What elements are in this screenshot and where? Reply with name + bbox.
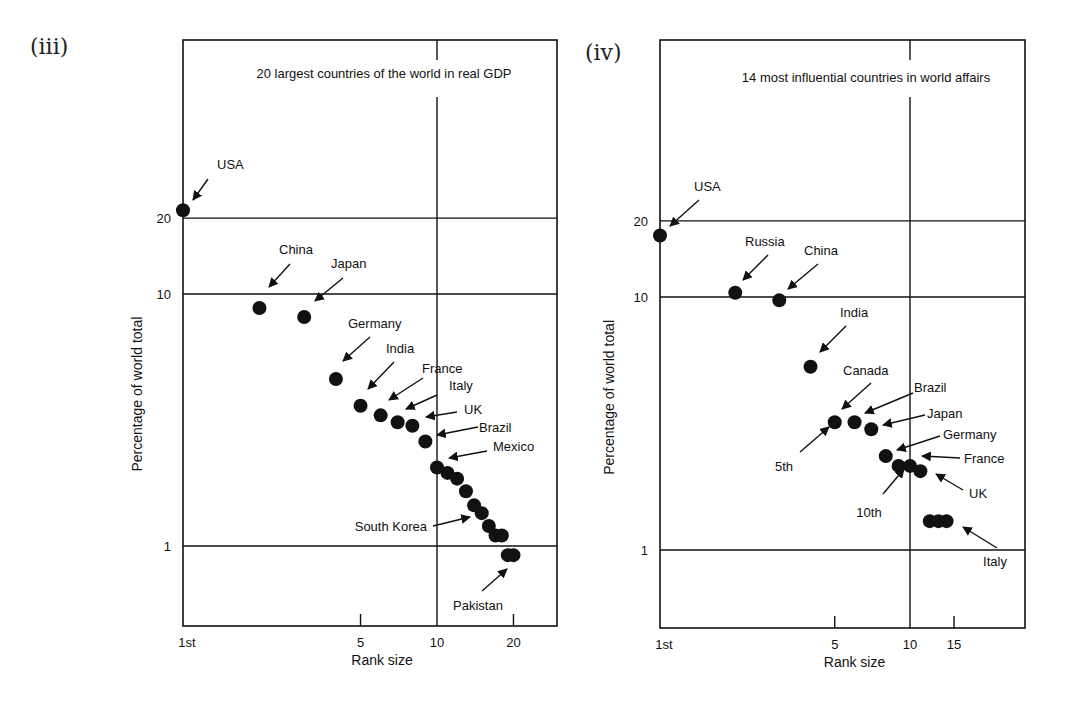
y-tick-label: 1 (641, 543, 648, 558)
chart-title: 20 largest countries of the world in rea… (256, 66, 511, 81)
data-point (459, 484, 473, 498)
point-label: Germany (348, 316, 402, 331)
arrow-icon (922, 456, 960, 458)
point-label: France (964, 451, 1004, 466)
data-point (495, 529, 509, 543)
data-point (405, 419, 419, 433)
data-point (804, 360, 818, 374)
point-label: Japan (927, 406, 962, 421)
point-label: India (386, 341, 415, 356)
data-point (252, 301, 266, 315)
y-tick-label: 20 (634, 214, 648, 229)
arrow-icon (670, 200, 699, 226)
x-tick-label: 5 (357, 635, 364, 650)
x-tick-label: 10 (903, 637, 917, 652)
arrow-icon (788, 264, 818, 289)
arrow-icon (269, 264, 290, 287)
chart-title: 14 most influential countries in world a… (742, 70, 991, 85)
x-axis-label: Rank size (351, 652, 413, 668)
data-point (475, 506, 489, 520)
point-label: UK (464, 402, 482, 417)
y-axis-label: Percentage of world total (601, 320, 617, 475)
x-tick-label: 20 (506, 635, 520, 650)
arrow-icon (389, 378, 423, 400)
y-tick-label: 10 (634, 290, 648, 305)
arrow-icon (936, 474, 963, 490)
point-label: Japan (331, 256, 366, 271)
arrow-icon (406, 395, 437, 409)
arrow-icon (883, 415, 925, 425)
arrow-icon (865, 393, 913, 413)
rank-annotation: 10th (856, 505, 881, 520)
data-point (374, 408, 388, 422)
arrow-icon (426, 412, 457, 417)
data-point (391, 415, 405, 429)
data-point (940, 514, 954, 528)
point-label: Germany (943, 427, 997, 442)
y-tick-label: 20 (157, 211, 171, 226)
chart-gdp: 20 largest countries of the world in rea… (129, 40, 557, 668)
data-point (879, 449, 893, 463)
y-tick-label: 10 (157, 287, 171, 302)
data-point (506, 548, 520, 562)
x-axis-label: Rank size (824, 654, 886, 670)
point-label: China (279, 242, 314, 257)
x-tick-label: 5 (831, 637, 838, 652)
data-point (176, 203, 190, 217)
data-point (828, 415, 842, 429)
point-label: France (422, 361, 462, 376)
arrow-icon (482, 569, 507, 591)
x-tick-label: 10 (430, 635, 444, 650)
point-label: India (840, 305, 869, 320)
point-label: Italy (983, 554, 1007, 569)
point-label: Brazil (914, 380, 947, 395)
arrow-icon (343, 337, 370, 361)
point-label: Russia (745, 234, 786, 249)
chart-influence: 14 most influential countries in world a… (601, 40, 1025, 670)
arrow-icon (449, 451, 487, 458)
point-label: USA (694, 179, 721, 194)
arrow-icon (820, 326, 846, 352)
point-label: Canada (843, 363, 889, 378)
arrow-icon (883, 469, 904, 494)
data-point (297, 310, 311, 324)
data-point (848, 415, 862, 429)
point-label: South Korea (355, 519, 428, 534)
plot-frame (660, 40, 1025, 628)
charts-canvas: 20 largest countries of the world in rea… (0, 0, 1077, 715)
data-point (864, 422, 878, 436)
arrow-icon (842, 383, 871, 409)
data-point (728, 286, 742, 300)
point-label: UK (969, 486, 987, 501)
arrow-icon (433, 517, 470, 526)
data-point (354, 399, 368, 413)
arrow-icon (800, 427, 829, 452)
point-label: Italy (449, 378, 473, 393)
x-tick-label: 15 (947, 637, 961, 652)
arrow-icon (368, 362, 394, 389)
rank-annotation: 5th (775, 459, 793, 474)
data-point (653, 229, 667, 243)
point-label: Mexico (493, 439, 534, 454)
arrow-icon (897, 436, 940, 450)
arrow-icon (193, 179, 208, 200)
arrow-icon (437, 427, 478, 435)
x-tick-label: 1st (178, 635, 196, 650)
data-point (329, 372, 343, 386)
point-label: Brazil (479, 420, 512, 435)
arrow-icon (315, 278, 343, 301)
arrow-icon (963, 527, 997, 548)
x-tick-label: 1st (655, 637, 673, 652)
data-point (450, 472, 464, 486)
data-point (418, 434, 432, 448)
arrow-icon (743, 255, 768, 280)
y-axis-label: Percentage of world total (129, 317, 145, 472)
data-point (772, 293, 786, 307)
point-label: Pakistan (453, 598, 503, 613)
point-label: USA (217, 157, 244, 172)
data-point (913, 464, 927, 478)
point-label: China (804, 243, 839, 258)
y-tick-label: 1 (164, 539, 171, 554)
